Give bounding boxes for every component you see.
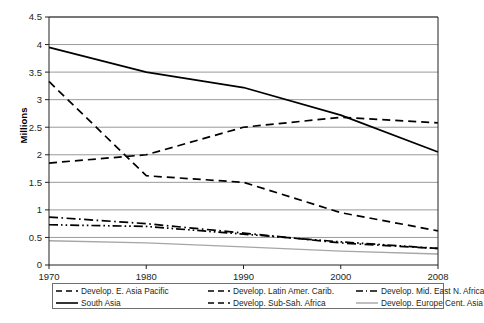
legend-label-latin-amer-carib: Develop. Latin Amer. Carib. bbox=[233, 286, 334, 296]
legend-swatch-e-asia-pacific bbox=[56, 286, 78, 296]
chart-plot-area: Millions 00.511.522.533.544.5 1970198019… bbox=[0, 0, 451, 290]
series-line-develop-latin-amer-carib bbox=[49, 81, 438, 230]
chart-legend: Develop. E. Asia Pacific Develop. Latin … bbox=[52, 283, 444, 309]
series-line-develop-e-asia-pacific bbox=[49, 117, 438, 163]
svg-text:2008: 2008 bbox=[427, 271, 448, 282]
svg-text:2.5: 2.5 bbox=[29, 122, 42, 133]
svg-text:2: 2 bbox=[37, 149, 42, 160]
svg-text:3: 3 bbox=[37, 94, 42, 105]
legend-swatch-south-asia bbox=[56, 298, 78, 308]
svg-text:0: 0 bbox=[37, 259, 42, 270]
gridlines-group bbox=[45, 17, 438, 265]
plot-frame-group bbox=[49, 17, 438, 265]
legend-label-mid-east-n-africa: Develop. Mid. East N. Africa bbox=[381, 286, 484, 296]
legend-label-south-asia: South Asia bbox=[81, 298, 121, 308]
legend-label-sub-sah-africa: Develop. Sub-Sah. Africa bbox=[233, 298, 326, 308]
legend-row-2: South Asia Develop. Sub-Sah. Africa Deve… bbox=[56, 297, 440, 309]
data-series-group bbox=[49, 47, 438, 254]
line-chart-svg: 00.511.522.533.544.5 1970198019902000200… bbox=[0, 0, 451, 290]
legend-item-e-asia-pacific[interactable]: Develop. E. Asia Pacific bbox=[56, 285, 208, 297]
legend-swatch-mid-east-n-africa bbox=[356, 286, 378, 296]
legend-item-sub-sah-africa[interactable]: Develop. Sub-Sah. Africa bbox=[208, 297, 356, 309]
legend-label-e-asia-pacific: Develop. E. Asia Pacific bbox=[81, 286, 169, 296]
legend-swatch-latin-amer-carib bbox=[208, 286, 230, 296]
svg-text:1990: 1990 bbox=[233, 271, 254, 282]
svg-text:3.5: 3.5 bbox=[29, 67, 42, 78]
svg-text:1: 1 bbox=[37, 204, 42, 215]
legend-item-mid-east-n-africa[interactable]: Develop. Mid. East N. Africa bbox=[356, 285, 440, 297]
legend-item-south-asia[interactable]: South Asia bbox=[56, 297, 208, 309]
legend-item-latin-amer-carib[interactable]: Develop. Latin Amer. Carib. bbox=[208, 285, 356, 297]
svg-text:2000: 2000 bbox=[330, 271, 351, 282]
svg-text:4.5: 4.5 bbox=[29, 11, 42, 22]
legend-item-europe-cent-asia[interactable]: Develop. Europe Cent. Asia bbox=[356, 297, 440, 309]
y-tick-labels-group: 00.511.522.533.544.5 bbox=[29, 11, 42, 270]
legend-swatch-sub-sah-africa bbox=[208, 298, 230, 308]
x-tick-labels-group: 19701980199020002008 bbox=[38, 265, 448, 282]
svg-text:1970: 1970 bbox=[38, 271, 59, 282]
legend-label-europe-cent-asia: Develop. Europe Cent. Asia bbox=[381, 298, 483, 308]
svg-text:1.5: 1.5 bbox=[29, 177, 42, 188]
svg-text:4: 4 bbox=[37, 39, 42, 50]
legend-row-1: Develop. E. Asia Pacific Develop. Latin … bbox=[56, 285, 440, 297]
svg-text:1980: 1980 bbox=[136, 271, 157, 282]
legend-swatch-europe-cent-asia bbox=[356, 298, 378, 308]
series-line-develop-europe-cent-asia bbox=[49, 241, 438, 254]
series-line-develop-sub-sah-africa bbox=[49, 225, 438, 249]
svg-text:0.5: 0.5 bbox=[29, 232, 42, 243]
